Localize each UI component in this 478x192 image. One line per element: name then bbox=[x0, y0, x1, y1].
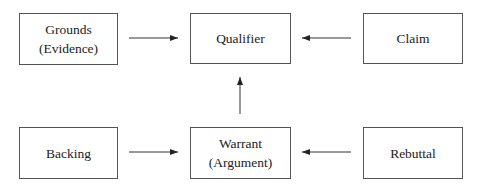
node-warrant: Warrant (Argument) bbox=[190, 127, 291, 179]
node-qualifier-label: Qualifier bbox=[216, 29, 265, 48]
node-claim-label: Claim bbox=[397, 29, 430, 48]
node-grounds-label: Grounds bbox=[45, 20, 92, 39]
node-warrant-label: Warrant bbox=[219, 134, 262, 153]
node-warrant-sublabel: (Argument) bbox=[209, 153, 273, 172]
node-backing: Backing bbox=[19, 127, 118, 179]
node-grounds-sublabel: (Evidence) bbox=[39, 39, 98, 58]
node-qualifier: Qualifier bbox=[190, 13, 291, 64]
node-rebuttal: Rebuttal bbox=[363, 127, 463, 179]
node-claim: Claim bbox=[363, 13, 463, 64]
node-rebuttal-label: Rebuttal bbox=[390, 144, 436, 163]
node-grounds: Grounds (Evidence) bbox=[19, 13, 118, 65]
node-backing-label: Backing bbox=[46, 144, 91, 163]
